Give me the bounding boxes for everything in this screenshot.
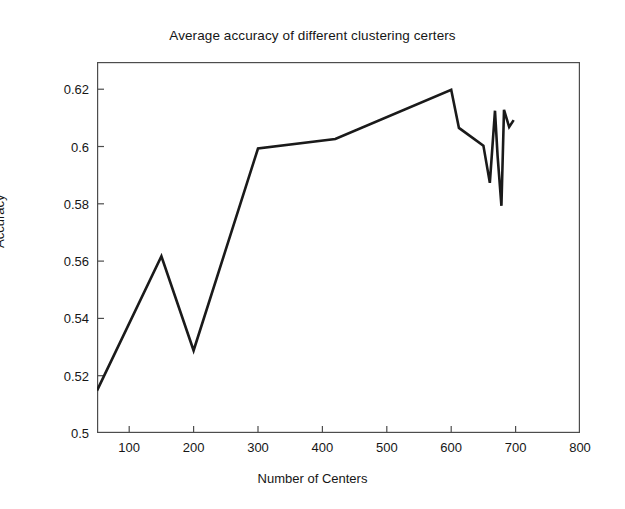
y-tick-label: 0.58	[64, 196, 89, 211]
x-tick-label: 300	[247, 440, 269, 455]
x-tick-label: 600	[440, 440, 462, 455]
x-tick-label: 700	[505, 440, 527, 455]
y-tick-label: 0.56	[64, 254, 89, 269]
y-axis-title: Accuracy	[0, 195, 7, 248]
plot-area: 0.50.520.540.560.580.60.62 1002003004005…	[97, 62, 580, 433]
figure-canvas: Average accuracy of different clustering…	[0, 0, 625, 509]
y-tick-label: 0.5	[71, 426, 89, 441]
y-tick-label: 0.62	[64, 82, 89, 97]
x-tick-label: 800	[569, 440, 591, 455]
data-series-line	[97, 90, 514, 391]
chart-title: Average accuracy of different clustering…	[0, 28, 625, 43]
y-tick-label: 0.6	[71, 139, 89, 154]
x-tick-label: 500	[376, 440, 398, 455]
x-tick-label: 200	[183, 440, 205, 455]
x-axis-title: Number of Centers	[0, 471, 625, 486]
y-tick-label: 0.52	[64, 368, 89, 383]
x-tick-label: 100	[118, 440, 140, 455]
plot-svg	[97, 62, 580, 433]
y-tick-label: 0.54	[64, 311, 89, 326]
x-tick-label: 400	[312, 440, 334, 455]
